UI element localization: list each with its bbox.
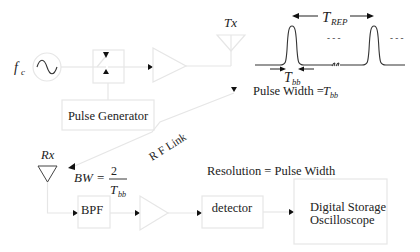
pulse-generator-block: Pulse Generator bbox=[62, 100, 154, 130]
ellipsis: - - - bbox=[390, 33, 404, 43]
svg-text:=: = bbox=[97, 170, 104, 185]
svg-text:f: f bbox=[14, 60, 20, 75]
svg-text:Oscilloscope: Oscilloscope bbox=[310, 213, 375, 227]
arrowhead-icon bbox=[197, 210, 202, 216]
bandwidth-formula: BW = 2 T bb bbox=[74, 164, 127, 199]
svg-text:2: 2 bbox=[111, 164, 117, 178]
impulse-radar-block-diagram: f c Tx Pulse Generator bbox=[0, 0, 420, 252]
arrowhead-left-icon bbox=[298, 67, 304, 72]
arrowhead-icon bbox=[135, 210, 140, 216]
rf-link-end-arrow-icon bbox=[68, 163, 75, 170]
svg-text:bb: bb bbox=[330, 91, 338, 100]
svg-text:c: c bbox=[21, 67, 25, 77]
svg-text:detector: detector bbox=[212, 201, 253, 215]
arrowhead-right-icon bbox=[367, 13, 374, 19]
svg-text:BPF: BPF bbox=[81, 203, 103, 217]
tx-amplifier-icon bbox=[153, 48, 186, 82]
svg-text:REP: REP bbox=[330, 17, 348, 27]
rf-link-label: R F Link bbox=[147, 130, 189, 162]
rf-link-start-arrow-icon bbox=[231, 87, 237, 92]
detector-block: detector bbox=[202, 196, 263, 228]
arrowhead-icon bbox=[289, 209, 294, 215]
connector-line bbox=[48, 182, 79, 213]
rx-amplifier-icon bbox=[140, 196, 168, 230]
t-rep-label: T REP bbox=[322, 9, 348, 27]
rx-label: Rx bbox=[40, 148, 55, 162]
arrowhead-icon bbox=[73, 210, 78, 216]
tx-label: Tx bbox=[224, 15, 237, 30]
svg-text:BW: BW bbox=[74, 170, 94, 185]
oscilloscope-block: Digital Storage Oscilloscope bbox=[294, 179, 387, 244]
pulse-width-label: Pulse Width = T bb bbox=[253, 84, 338, 100]
rf-switch bbox=[93, 50, 124, 83]
tx-antenna: Tx bbox=[217, 15, 245, 51]
svg-text:Pulse Width =: Pulse Width = bbox=[253, 84, 324, 98]
rx-antenna-icon bbox=[38, 166, 57, 182]
diagram-svg: f c Tx Pulse Generator bbox=[0, 0, 420, 252]
ellipsis: - - - bbox=[327, 33, 341, 43]
pulse-waveform: - - - - - - T REP T bb Pulse Width = T b… bbox=[253, 9, 405, 100]
arrowhead-icon bbox=[148, 64, 153, 70]
resolution-label: Resolution = Pulse Width bbox=[207, 164, 336, 178]
bpf-block: BPF bbox=[78, 196, 110, 228]
oscillator bbox=[33, 53, 61, 81]
svg-text:Digital Storage: Digital Storage bbox=[310, 200, 386, 214]
svg-text:T: T bbox=[110, 182, 118, 197]
arrowhead-left-icon bbox=[292, 13, 299, 19]
carrier-label: f c bbox=[14, 60, 25, 77]
svg-text:Pulse Generator: Pulse Generator bbox=[68, 109, 149, 123]
svg-text:bb: bb bbox=[118, 190, 126, 199]
